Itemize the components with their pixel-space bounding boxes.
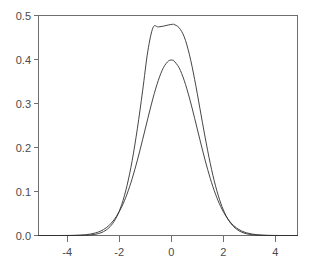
y-tick-label: 0.2 <box>16 142 31 154</box>
y-tick-label: 0.0 <box>16 230 31 242</box>
x-tick-label: 2 <box>220 246 226 258</box>
plot-canvas: 0.00.10.20.30.40.5 -4-2024 <box>0 0 311 273</box>
x-tick-label: -2 <box>114 246 124 258</box>
y-tick-label: 0.4 <box>16 54 31 66</box>
figure-background <box>0 0 311 273</box>
y-tick-label: 0.3 <box>16 98 31 110</box>
y-tick-label: 0.5 <box>16 10 31 22</box>
y-tick-label: 0.1 <box>16 186 31 198</box>
x-tick-label: 4 <box>272 246 278 258</box>
x-tick-label: 0 <box>168 246 174 258</box>
density-plot-figure: 0.00.10.20.30.40.5 -4-2024 <box>0 0 311 273</box>
x-tick-label: -4 <box>62 246 72 258</box>
